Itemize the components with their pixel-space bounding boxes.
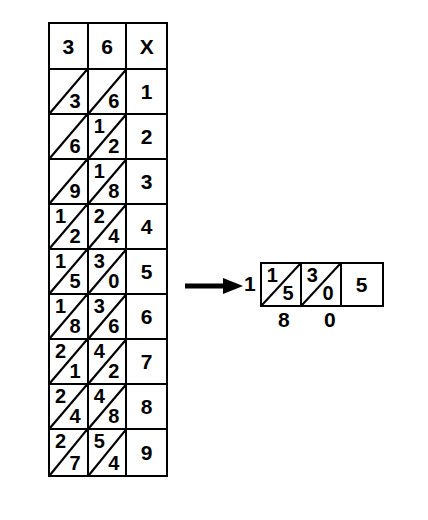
table-row: 12244 xyxy=(50,205,166,250)
result-sum-digit: 8 xyxy=(278,309,290,330)
cell-ones-digit: 8 xyxy=(108,406,119,427)
cell-ones-digit: 6 xyxy=(70,136,81,157)
table-header-row: 3 6 X xyxy=(50,24,166,70)
partial-product-ones-cell: 36 xyxy=(89,295,128,338)
lattice-multiplication-table: 3 6 X 3616122918312244153051836621427244… xyxy=(48,22,168,477)
multiplier-cell: 3 xyxy=(127,160,166,203)
cell-ones-digit: 0 xyxy=(108,271,119,292)
result-sum-digit: 0 xyxy=(324,309,336,330)
cell-ones-digit: 2 xyxy=(108,361,119,382)
diagonal-divider-icon xyxy=(50,70,87,113)
cell-ones-digit: 2 xyxy=(108,136,119,157)
cell-tens-digit: 1 xyxy=(267,265,278,286)
multiplier-cell: 1 xyxy=(127,70,166,113)
partial-product-ones-cell: 48 xyxy=(89,385,128,428)
multiplier-cell: 6 xyxy=(127,295,166,338)
cell-tens-digit: 3 xyxy=(307,265,318,286)
cell-ones-digit: 4 xyxy=(108,226,119,247)
header-multiplicand-ones: 6 xyxy=(89,24,128,68)
table-row: 27549 xyxy=(50,430,166,475)
cell-ones-digit: 1 xyxy=(70,361,81,382)
table-row: 21427 xyxy=(50,340,166,385)
cell-tens-digit: 1 xyxy=(94,116,105,137)
cell-ones-digit: 2 xyxy=(70,226,81,247)
cell-ones-digit: 8 xyxy=(108,181,119,202)
partial-product-tens-cell: 9 xyxy=(50,160,89,203)
partial-product-ones-cell: 30 xyxy=(89,250,128,293)
result-split-cell: 30 xyxy=(302,264,342,305)
cell-tens-digit: 3 xyxy=(94,251,105,272)
cell-tens-digit: 2 xyxy=(94,206,105,227)
partial-product-tens-cell: 21 xyxy=(50,340,89,383)
partial-product-ones-cell: 18 xyxy=(89,160,128,203)
header-multiplicand-tens: 3 xyxy=(50,24,89,68)
multiplier-cell: 8 xyxy=(127,385,166,428)
cell-tens-digit: 1 xyxy=(55,296,66,317)
cell-ones-digit: 6 xyxy=(108,91,119,112)
cell-ones-digit: 5 xyxy=(70,271,81,292)
cell-ones-digit: 7 xyxy=(70,453,81,474)
result-carry-digit: 1 xyxy=(244,273,256,296)
result-split-cell: 15 xyxy=(262,264,302,305)
partial-product-tens-cell: 18 xyxy=(50,295,89,338)
cell-ones-digit: 4 xyxy=(70,406,81,427)
result-plain-cell: 5 xyxy=(342,264,382,305)
partial-product-ones-cell: 24 xyxy=(89,205,128,248)
result-group: 1 15305 80 xyxy=(244,262,386,331)
partial-product-ones-cell: 54 xyxy=(89,430,128,475)
result-lattice-box: 15305 xyxy=(260,262,384,307)
lattice-body: 3616122918312244153051836621427244882754… xyxy=(50,70,166,475)
partial-product-tens-cell: 24 xyxy=(50,385,89,428)
multiplier-cell: 9 xyxy=(127,430,166,475)
cell-tens-digit: 2 xyxy=(55,341,66,362)
multiplier-cell: 4 xyxy=(127,205,166,248)
cell-ones-digit: 9 xyxy=(70,181,81,202)
diagonal-divider-icon xyxy=(50,160,87,203)
cell-ones-digit: 8 xyxy=(70,316,81,337)
cell-tens-digit: 4 xyxy=(94,341,105,362)
cell-tens-digit: 1 xyxy=(94,161,105,182)
cell-ones-digit: 0 xyxy=(323,283,334,304)
cell-ones-digit: 3 xyxy=(70,91,81,112)
cell-tens-digit: 4 xyxy=(94,386,105,407)
partial-product-tens-cell: 6 xyxy=(50,115,89,158)
result-sum-digits: 80 xyxy=(262,307,386,331)
cell-tens-digit: 1 xyxy=(55,206,66,227)
multiplier-cell: 2 xyxy=(127,115,166,158)
diagonal-divider-icon xyxy=(50,115,87,158)
diagonal-divider-icon xyxy=(89,70,126,113)
table-row: 361 xyxy=(50,70,166,115)
table-row: 24488 xyxy=(50,385,166,430)
partial-product-ones-cell: 6 xyxy=(89,70,128,113)
multiplier-cell: 7 xyxy=(127,340,166,383)
multiplier-cell: 5 xyxy=(127,250,166,293)
table-row: 15305 xyxy=(50,250,166,295)
cell-tens-digit: 2 xyxy=(55,386,66,407)
arrow-right-icon xyxy=(185,276,243,296)
cell-tens-digit: 5 xyxy=(94,431,105,452)
cell-ones-digit: 6 xyxy=(108,316,119,337)
result-row: 1 15305 xyxy=(244,262,386,307)
table-row: 6122 xyxy=(50,115,166,160)
header-multiplier-label: X xyxy=(127,24,166,68)
table-row: 9183 xyxy=(50,160,166,205)
partial-product-tens-cell: 15 xyxy=(50,250,89,293)
cell-tens-digit: 1 xyxy=(55,251,66,272)
partial-product-ones-cell: 12 xyxy=(89,115,128,158)
cell-ones-digit: 4 xyxy=(108,453,119,474)
partial-product-ones-cell: 42 xyxy=(89,340,128,383)
partial-product-tens-cell: 3 xyxy=(50,70,89,113)
table-row: 18366 xyxy=(50,295,166,340)
partial-product-tens-cell: 12 xyxy=(50,205,89,248)
partial-product-tens-cell: 27 xyxy=(50,430,89,475)
cell-tens-digit: 3 xyxy=(94,296,105,317)
cell-ones-digit: 5 xyxy=(283,283,294,304)
cell-tens-digit: 2 xyxy=(55,431,66,452)
